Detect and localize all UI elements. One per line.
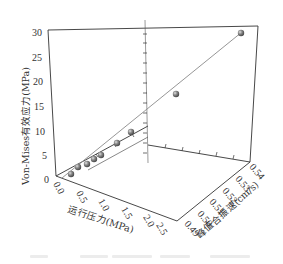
z-tick-labels: 30 25 20 15 10 5 0 <box>32 27 49 185</box>
floor-back-left <box>56 126 148 176</box>
figure-caption-faint <box>0 252 283 262</box>
x-tick-3: 1.5 <box>119 205 135 221</box>
z-axis-line <box>48 30 56 176</box>
data-point <box>173 91 179 97</box>
data-point <box>238 30 244 36</box>
y-tick-labels: 0.49 0.50 0.51 0.52 0.53 0.54 <box>182 161 267 238</box>
data-point <box>114 140 120 146</box>
data-point <box>98 152 104 158</box>
data-point <box>128 129 134 135</box>
right-edge <box>250 26 258 162</box>
z-tick-5: 5 <box>42 150 47 161</box>
z-axis-title: Von-Mises有效应力(MPa) <box>20 67 31 186</box>
data-point <box>91 156 97 162</box>
z-tick-20: 20 <box>33 76 43 87</box>
x-tick-0: 0.0 <box>51 180 67 196</box>
data-point <box>84 161 90 167</box>
z-tick-25: 25 <box>32 52 42 63</box>
top-edge <box>48 26 258 30</box>
floor-ticks <box>78 134 234 167</box>
z-tick-0: 0 <box>44 174 49 185</box>
3d-scatter-chart: 30 25 20 15 10 5 0 Von-Mises有效应力(MPa) 0.… <box>0 0 283 264</box>
y-tick-5: 0.54 <box>247 161 267 181</box>
z-tick-15: 15 <box>34 101 44 112</box>
x-tick-1: 0.5 <box>74 189 90 205</box>
data-point <box>75 164 81 170</box>
z-tick-30: 30 <box>32 27 42 38</box>
data-point <box>68 171 74 177</box>
back-corner-edge <box>145 20 148 163</box>
x-tick-2: 1.0 <box>96 197 112 213</box>
z-tick-10: 10 <box>35 126 45 137</box>
